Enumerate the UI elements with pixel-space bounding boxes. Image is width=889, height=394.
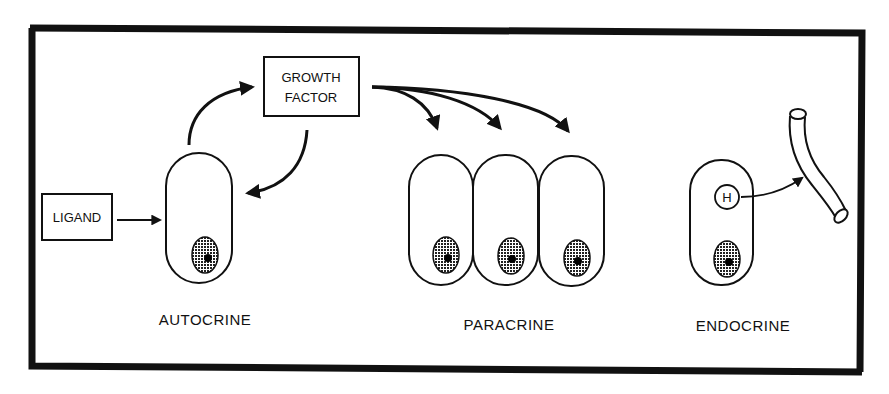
hormone-label: H [722, 190, 731, 205]
ligand-label: LIGAND [53, 210, 101, 225]
nucleus [192, 237, 218, 273]
autocrine-cell [166, 153, 232, 283]
endocrine-panel: H ENDOCRINE [690, 109, 850, 334]
paracrine-cell-3 [539, 156, 604, 286]
growth-factor-label-line2: FACTOR [285, 90, 338, 105]
growth-factor-label-line1: GROWTH [281, 70, 340, 85]
paracrine-cell-2 [473, 155, 538, 285]
autocrine-caption: AUTOCRINE [159, 311, 252, 328]
arrow-cell-to-growth-factor [189, 87, 252, 145]
blood-vessel-icon [790, 109, 851, 225]
ligand-box: LIGAND [42, 194, 112, 240]
endocrine-caption: ENDOCRINE [696, 317, 791, 334]
paracrine-caption: PARACRINE [464, 316, 555, 333]
paracrine-panel: PARACRINE [372, 87, 604, 333]
signaling-diagram: GROWTH FACTOR LIGAND AUTOCRINE [0, 0, 889, 394]
endocrine-cell: H [690, 160, 753, 285]
paracrine-cell-1 [409, 155, 473, 285]
growth-factor-box: GROWTH FACTOR [264, 57, 359, 116]
arrow-growth-factor-to-cell [248, 130, 307, 193]
autocrine-panel: GROWTH FACTOR LIGAND AUTOCRINE [42, 57, 359, 328]
